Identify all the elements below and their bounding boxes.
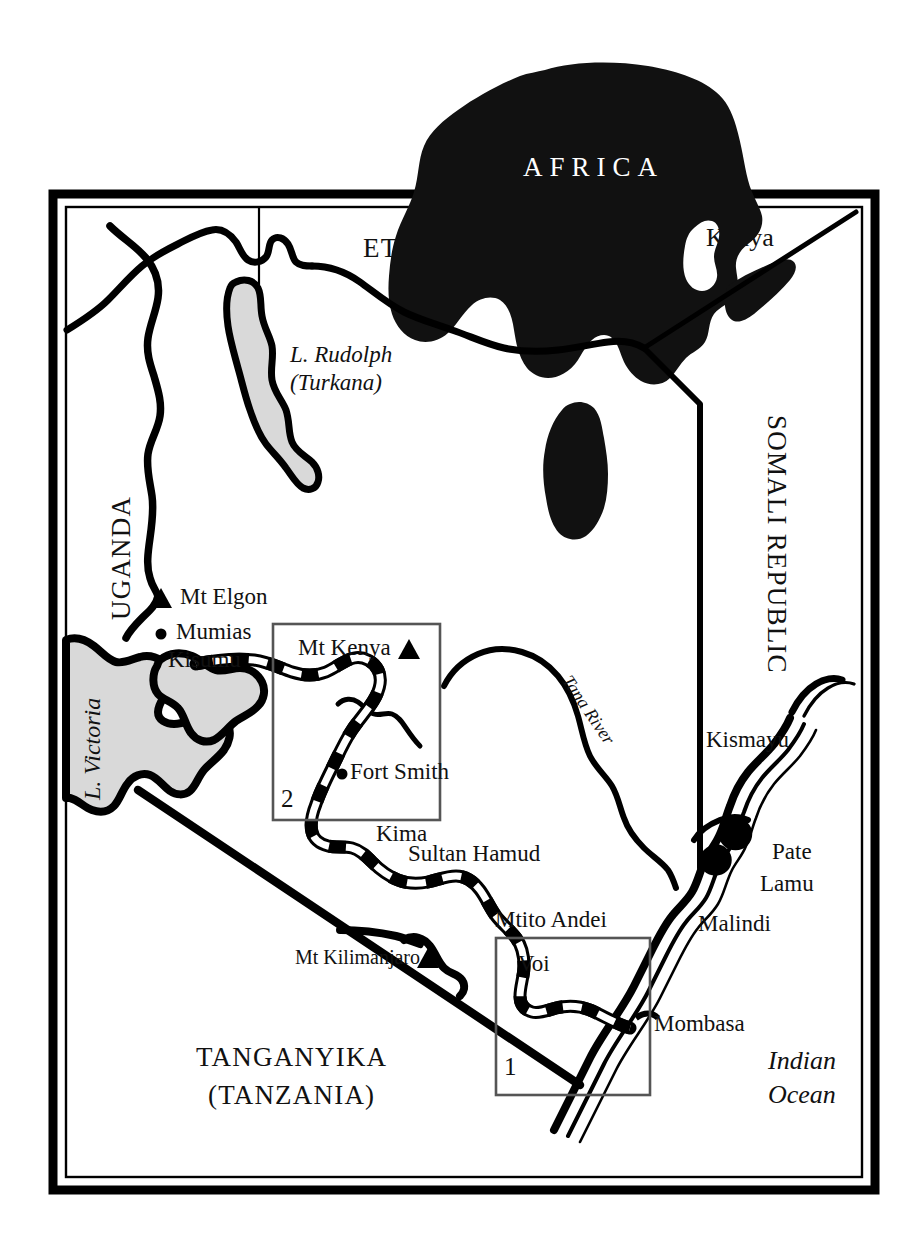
country-label-somali-republic: SOMALI REPUBLIC <box>762 415 790 674</box>
town-label-lamu: Lamu <box>760 872 814 895</box>
town-label-voi: Voi <box>518 952 550 975</box>
inset-box-label-2: 2 <box>281 786 294 812</box>
inset-box-label-1: 1 <box>504 1054 517 1080</box>
fort-smith-dot <box>337 769 348 780</box>
water-label-lake-victoria: L. Victoria <box>80 698 104 800</box>
mountain-label-mt-kenya: Mt Kenya <box>298 636 391 659</box>
mumias-dot <box>156 629 167 640</box>
map-figure: AFRICA Kenya ETHIOPIA UGANDA SOMALI REPU… <box>0 0 916 1246</box>
country-label-tanzania: (TANZANIA) <box>208 1082 375 1110</box>
town-label-mombasa: Mombasa <box>654 1012 745 1035</box>
town-label-fort-smith: Fort Smith <box>350 760 449 783</box>
water-label-ocean: Ocean <box>768 1082 836 1109</box>
town-label-pate: Pate <box>772 840 812 863</box>
mountain-label-mt-elgon: Mt Elgon <box>180 585 268 608</box>
town-label-kismayu: Kismayu <box>706 728 789 751</box>
inset-kenya-label: Kenya <box>706 225 774 252</box>
town-label-kisumu: Kisumu <box>168 648 241 671</box>
africa-inset-label: AFRICA <box>523 152 664 183</box>
country-label-tanganyika: TANGANYIKA <box>196 1044 387 1072</box>
water-label-lake-rudolph: L. Rudolph <box>290 343 392 366</box>
town-label-mumias: Mumias <box>176 620 251 643</box>
country-label-uganda: UGANDA <box>108 496 136 620</box>
town-label-mtito-andei: Mtito Andei <box>495 908 607 931</box>
water-label-lake-turkana: (Turkana) <box>290 371 382 394</box>
country-label-ethiopia: ETHIOPIA <box>363 235 497 263</box>
town-label-malindi: Malindi <box>698 912 771 935</box>
mountain-label-mt-kilimanjaro: Mt Kilimanjaro <box>295 947 420 967</box>
town-label-sultan-hamud: Sultan Hamud <box>408 842 540 865</box>
water-label-indian: Indian <box>768 1048 836 1075</box>
